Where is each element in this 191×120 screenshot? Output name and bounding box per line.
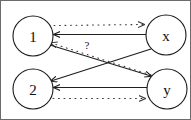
node-2[interactable]: 2 bbox=[13, 69, 53, 109]
node-1[interactable]: 1 bbox=[13, 16, 53, 56]
node-y-label: y bbox=[163, 82, 171, 98]
node-x-label: x bbox=[162, 28, 170, 44]
edge-1-to-y-solid bbox=[50, 45, 151, 76]
node-y[interactable]: y bbox=[147, 69, 187, 109]
edge-1-to-x-dotted bbox=[54, 25, 144, 26]
node-2-label: 2 bbox=[29, 82, 37, 98]
node-x[interactable]: x bbox=[146, 15, 186, 55]
figure-frame: ? 1 x 2 y bbox=[0, 0, 191, 120]
node-1-label: 1 bbox=[29, 29, 37, 45]
graph-canvas: ? 1 x 2 y bbox=[1, 1, 191, 120]
edge-label-question-mark: ? bbox=[85, 39, 90, 51]
edge-x-to-2-solid bbox=[51, 49, 151, 81]
edge-y-to-1-dotted bbox=[51, 43, 151, 75]
